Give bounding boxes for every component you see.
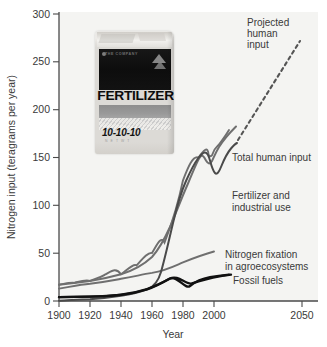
x-tick-label: 1920 [78, 309, 102, 321]
x-tick-label: 1900 [47, 309, 71, 321]
annotation-line: input [247, 39, 269, 50]
x-tick-label: 1980 [171, 309, 195, 321]
y-tick-label: 250 [32, 55, 50, 67]
fertilizer-bag-photo: THE COMPANY FERTILIZER 10-10-10 N E T W … [95, 31, 174, 154]
annotation-total-human-input: Total human input [232, 152, 311, 163]
y-tick-label: 150 [32, 151, 50, 163]
x-tick-label: 1960 [140, 309, 164, 321]
annotation-line: in agroecosystems [225, 261, 308, 272]
annotation-fertilizer-industrial: Fertilizer and industrial use [232, 190, 291, 213]
y-axis-title: Nitrogen input (teragrams per year) [5, 75, 17, 239]
x-tick-label: 2000 [202, 309, 226, 321]
y-tick-label: 100 [32, 199, 50, 211]
x-axis-title: Year [162, 328, 184, 340]
bag-body: THE COMPANY FERTILIZER 10-10-10 N E T W … [95, 31, 174, 154]
annotation-line: Fertilizer and [232, 190, 290, 201]
y-tick-label: 200 [32, 103, 50, 115]
bag-crease [138, 33, 166, 41]
bag-bottom-shading [95, 142, 174, 154]
y-tick-label: 50 [38, 247, 50, 259]
y-tick-label: 0 [44, 295, 50, 307]
y-axis-ticks [53, 14, 59, 301]
bag-triangle-icon [154, 61, 166, 69]
x-axis-ticks [59, 301, 302, 307]
bag-side-shading [167, 31, 174, 154]
annotation-line: Nitrogen fixation [225, 249, 297, 260]
annotation-line: industrial use [232, 202, 291, 213]
annotation-line: human [247, 28, 278, 39]
x-axis-tick-labels: 1900 1920 1940 1960 1980 2000 2050 [47, 309, 314, 321]
bag-product-title: FERTILIZER [97, 88, 171, 104]
bag-npk-grade: 10-10-10 [102, 127, 140, 138]
y-axis-tick-labels: 0 50 100 150 200 250 300 [32, 8, 50, 307]
x-tick-label: 2050 [290, 309, 314, 321]
annotation-fossil-fuels: Fossil fuels [233, 275, 283, 286]
y-tick-label: 300 [32, 8, 50, 20]
bag-brand-text: THE COMPANY [105, 52, 138, 56]
annotation-line: Projected [247, 17, 289, 28]
annotation-nitrogen-fixation: Nitrogen fixation in agroecosystems [225, 249, 308, 272]
nitrogen-input-chart-figure: 0 50 100 150 200 250 300 1900 1920 1940 … [0, 0, 327, 347]
x-tick-label: 1940 [109, 309, 133, 321]
bag-crease [99, 34, 136, 43]
bag-dark-panel: THE COMPANY [99, 49, 171, 90]
